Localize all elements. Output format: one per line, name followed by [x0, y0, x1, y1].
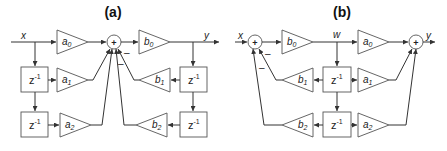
diagram-a-title: (a)	[104, 4, 121, 20]
gain-a0: a0	[57, 30, 88, 54]
gain-a1: a1	[358, 68, 389, 92]
delay-1: z-1	[323, 67, 351, 92]
gain-b0: b0	[282, 30, 313, 54]
sum-node-output: +	[409, 35, 423, 49]
input-x-label: x	[20, 30, 27, 41]
output-y-label: y	[203, 30, 210, 41]
b2-to-sum-line	[253, 49, 282, 125]
internal-w-label: w	[333, 29, 341, 40]
minus-sign-b1: –	[124, 47, 130, 58]
gain-a2: a2	[358, 113, 389, 137]
delay-right-1: z-1	[180, 67, 207, 92]
input-x-label: x	[237, 30, 244, 41]
svg-text:+: +	[413, 38, 418, 48]
gain-a1: a1	[57, 68, 88, 92]
diagram-b: (b) x + b0 w a0 + y z-1	[235, 4, 435, 137]
gain-a0: a0	[358, 30, 389, 54]
output-y-label: y	[425, 30, 432, 41]
gain-b2: b2	[136, 113, 167, 137]
diagram-a: (a) x a0 + b0 y z-1 a1	[11, 4, 219, 137]
sum-node: +	[107, 35, 121, 49]
svg-text:+: +	[252, 38, 257, 48]
gain-b2: b2	[282, 113, 313, 137]
delay-left-2: z-1	[21, 112, 48, 137]
minus-sign-b2: –	[118, 58, 124, 69]
delay-left-1: z-1	[21, 67, 48, 92]
svg-text:+: +	[111, 38, 116, 48]
gain-a2: a2	[60, 113, 91, 137]
sum-node-input: +	[248, 35, 262, 49]
block-diagrams: (a) x a0 + b0 y z-1 a1	[0, 0, 447, 151]
a1-to-sum-line	[389, 49, 412, 80]
a2-to-sum-line	[91, 49, 112, 125]
delay-right-2: z-1	[180, 112, 207, 137]
gain-b1: b1	[139, 68, 170, 92]
a2-to-sum-line	[389, 49, 416, 125]
delay-2: z-1	[323, 112, 351, 137]
minus-sign-b2: –	[259, 62, 265, 73]
minus-sign-b1: –	[265, 48, 271, 59]
diagram-b-title: (b)	[333, 4, 351, 20]
gain-b1: b1	[282, 68, 313, 92]
gain-b0: b0	[139, 30, 170, 54]
a1-to-sum-line	[88, 49, 110, 80]
